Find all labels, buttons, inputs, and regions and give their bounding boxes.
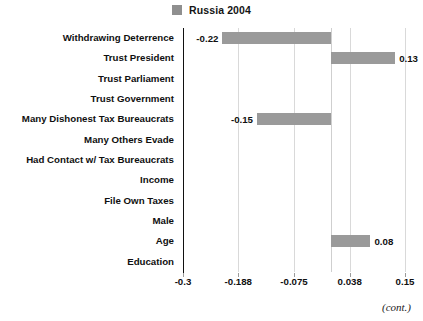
y-axis-category-label: Withdrawing Deterrence (0, 28, 178, 48)
bar-row (183, 89, 405, 109)
x-axis-tick-label: 0.15 (396, 276, 415, 287)
y-axis-category-label: Many Others Evade (0, 130, 178, 150)
bar-value-label: -0.15 (225, 113, 253, 126)
legend-swatch-icon (172, 5, 182, 15)
bar[interactable] (331, 52, 395, 64)
legend-label: Russia 2004 (189, 4, 251, 16)
bar-value-label: -0.22 (190, 32, 218, 45)
x-axis-tick-labels: -0.3-0.188-0.0750.0380.15 (0, 276, 423, 290)
y-axis-category-label: Trust Parliament (0, 69, 178, 89)
y-axis-category-label: Age (0, 231, 178, 251)
bar-value-label: 0.08 (374, 235, 393, 248)
chart-legend: Russia 2004 (0, 2, 423, 18)
bar-row (183, 150, 405, 170)
x-axis-tick-label: -0.188 (225, 276, 252, 287)
bar-row (183, 69, 405, 89)
x-axis-tick-label: -0.3 (175, 276, 192, 287)
x-axis-tick-label: -0.075 (280, 276, 307, 287)
bar-row (183, 191, 405, 211)
bar-row (183, 130, 405, 150)
y-axis-category-label: File Own Taxes (0, 191, 178, 211)
bar-value-label: 0.13 (399, 52, 418, 65)
y-axis-category-label: Income (0, 170, 178, 190)
bar-row (183, 252, 405, 272)
bar-row: 0.13 (183, 48, 405, 68)
bar-row: 0.08 (183, 231, 405, 251)
plot-area: -0.220.13-0.150.08 (183, 28, 405, 272)
bar-row: -0.15 (183, 109, 405, 129)
y-axis-category-label: Many Dishonest Tax Bureaucrats (0, 109, 178, 129)
y-axis-category-labels: Withdrawing DeterrenceTrust PresidentTru… (0, 28, 178, 272)
bar-row (183, 170, 405, 190)
bar[interactable] (331, 235, 370, 247)
bar[interactable] (222, 32, 331, 44)
bar[interactable] (257, 113, 331, 125)
bar-row (183, 211, 405, 231)
y-axis-category-label: Male (0, 211, 178, 231)
y-axis-category-label: Had Contact w/ Tax Bureaucrats (0, 150, 178, 170)
y-axis-category-label: Trust President (0, 48, 178, 68)
y-axis-category-label: Trust Government (0, 89, 178, 109)
bar-row: -0.22 (183, 28, 405, 48)
y-axis-category-label: Education (0, 252, 178, 272)
continuation-note: (cont.) (382, 301, 411, 313)
x-axis-tick-label: 0.038 (338, 276, 362, 287)
